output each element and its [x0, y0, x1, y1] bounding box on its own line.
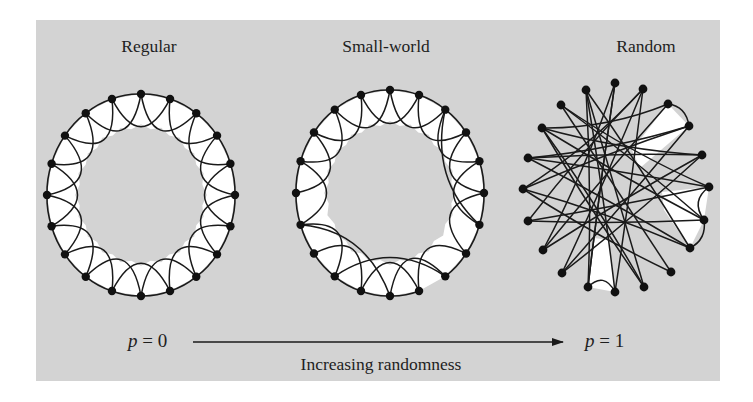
node [166, 95, 174, 103]
node [386, 86, 394, 94]
p-zero-value: = 0 [138, 330, 168, 351]
node [61, 131, 69, 139]
p-one-label: p = 1 [585, 330, 624, 352]
increasing-randomness-caption: Increasing randomness [301, 354, 462, 375]
node [292, 189, 300, 197]
node [331, 105, 339, 113]
node [524, 217, 533, 226]
p-variable: p [128, 330, 138, 351]
node [441, 272, 449, 280]
node [475, 157, 483, 165]
p-zero-label: p = 0 [128, 330, 167, 352]
node [296, 221, 304, 229]
node [557, 101, 566, 110]
node [667, 268, 676, 277]
node [108, 95, 116, 103]
node [415, 287, 423, 295]
node [226, 160, 234, 168]
ring-fill [296, 90, 484, 296]
node [441, 105, 449, 113]
node [539, 246, 548, 255]
node [705, 183, 714, 192]
node [108, 287, 116, 295]
node [686, 244, 695, 253]
node [519, 185, 528, 194]
p-one-value: = 1 [595, 330, 625, 351]
node [137, 90, 145, 98]
node [664, 100, 673, 109]
node [700, 216, 709, 225]
regular-lattice-graph [43, 90, 239, 300]
node [331, 272, 339, 280]
node [47, 222, 55, 230]
node [192, 273, 200, 281]
node [192, 109, 200, 117]
node [82, 109, 90, 117]
node [524, 154, 533, 163]
node [462, 249, 470, 257]
node [226, 222, 234, 230]
node [166, 287, 174, 295]
node [462, 128, 470, 136]
node [611, 79, 620, 88]
node [698, 151, 707, 160]
node [61, 250, 69, 258]
random-title: Random [616, 36, 675, 57]
regular-title: Regular [121, 36, 176, 57]
node [582, 86, 591, 95]
node [47, 160, 55, 168]
node [357, 287, 365, 295]
node [296, 157, 304, 165]
node [82, 273, 90, 281]
node [231, 191, 239, 199]
node [415, 91, 423, 99]
node [310, 128, 318, 136]
ring-fill [47, 94, 235, 296]
node [640, 283, 649, 292]
node [357, 91, 365, 99]
node [43, 191, 51, 199]
random-graph [519, 79, 714, 297]
node [137, 292, 145, 300]
node [639, 85, 648, 94]
node [584, 283, 593, 292]
node [475, 221, 483, 229]
node [685, 122, 694, 131]
small-world-graph [292, 86, 488, 300]
node [480, 189, 488, 197]
network-diagram [0, 0, 753, 402]
node [558, 269, 567, 278]
node [538, 124, 547, 133]
node [611, 288, 620, 297]
node [213, 250, 221, 258]
node [213, 131, 221, 139]
node [310, 249, 318, 257]
node [386, 292, 394, 300]
p-variable: p [585, 330, 595, 351]
small-world-title: Small-world [342, 36, 430, 57]
